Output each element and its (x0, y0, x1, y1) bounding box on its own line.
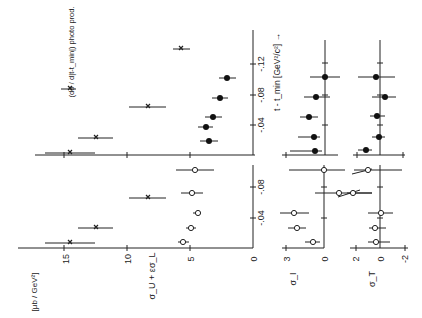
sigma-t-tick-0: 0 (376, 256, 386, 261)
tick-0: 0 (249, 256, 259, 261)
tick-5: 5 (186, 256, 196, 261)
photoproduction-markers (68, 46, 183, 244)
t-tick-08-lower: -.08 (256, 179, 266, 195)
t-tick-04-lower: -.04 (256, 210, 266, 226)
tick-10: 10 (123, 254, 133, 264)
sigma-i-tick-3: 3 (282, 256, 292, 261)
sigma-t-label: σ_T (367, 270, 377, 287)
units-label: [μb / GeV²] (30, 273, 39, 312)
y-axis-label: σ_U + εσ_L (147, 253, 157, 300)
sigma-i-label: σ_I (288, 272, 298, 285)
x-axis-label: t - t_min [GeV²/c²] → (272, 33, 282, 111)
t-tick-04-upper: -.04 (256, 117, 266, 133)
electroproduction-solid-markers (203, 74, 388, 154)
sigma-t-tick-2: 2 (351, 256, 361, 261)
figure: 15 10 5 0 -.04 -.08 -.12 -.04 -.08 3 0 2… (0, 0, 422, 318)
sigma-i-tick-0: 0 (320, 256, 330, 261)
electroproduction-open-markers (180, 167, 383, 244)
t-tick-08-upper: -.08 (256, 87, 266, 103)
tick-15: 15 (61, 254, 71, 264)
sigma-t-tick-m2: -2 (400, 255, 410, 263)
t-tick-12-upper: -.12 (256, 56, 266, 72)
legend-label: (dσ / d|t-t_min|) photo prod. (67, 6, 76, 97)
